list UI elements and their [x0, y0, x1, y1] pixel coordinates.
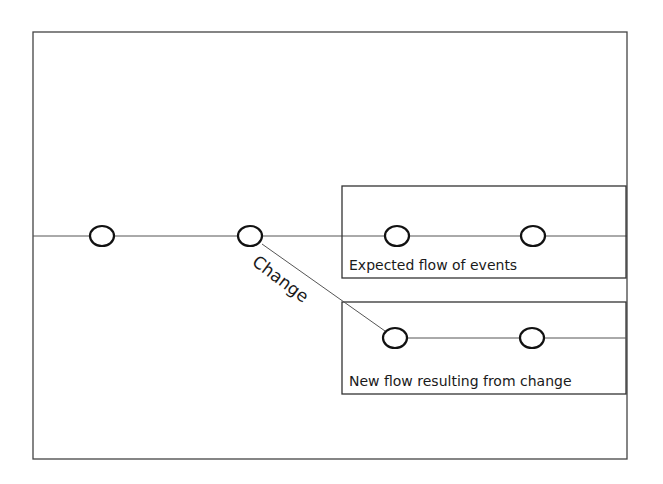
event-node-2-change-point — [238, 226, 262, 246]
new-event-node-1 — [383, 328, 407, 348]
expected-flow-label: Expected flow of events — [349, 257, 517, 273]
expected-event-node-1 — [385, 226, 409, 246]
new-event-node-2 — [520, 328, 544, 348]
expected-event-node-2 — [521, 226, 545, 246]
flow-diagram: Expected flow of events New flow resulti… — [0, 0, 663, 484]
new-flow-label: New flow resulting from change — [349, 373, 572, 389]
event-node-1 — [90, 226, 114, 246]
change-label: Change — [249, 251, 313, 306]
